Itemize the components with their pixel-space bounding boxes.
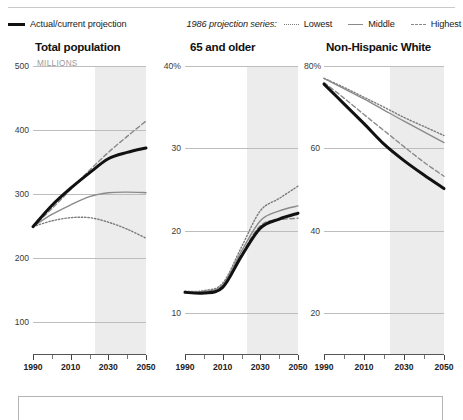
x-axis-tick (260, 355, 261, 360)
legend-item-lowest: Lowest (284, 19, 349, 29)
y-axis-tick-label: 500 (0, 62, 29, 71)
x-axis-tick (364, 355, 365, 360)
panel-title: Non-Hispanic White (326, 40, 431, 53)
series-line (324, 78, 444, 142)
x-axis-tick (146, 355, 147, 360)
x-axis-tick (223, 355, 224, 360)
y-axis-tick-label: 400 (0, 126, 29, 135)
y-axis-tick-label: 80% (304, 62, 320, 71)
x-axis-tick (344, 355, 345, 359)
legend-label-lowest: Lowest (304, 19, 333, 29)
series-line (324, 84, 444, 189)
footer-callout-box (18, 396, 443, 420)
x-axis-tick (404, 355, 405, 360)
x-axis-tick-label: 2030 (394, 362, 413, 372)
x-axis-tick-label: 2030 (251, 362, 270, 372)
series-line (185, 213, 298, 293)
series-line (324, 82, 444, 176)
legend-item-highest: Highest (411, 19, 461, 29)
plot-area: 5004003002001001990201020302050 (33, 66, 146, 354)
legend-swatch-solid-icon (348, 24, 363, 25)
x-axis-tick (204, 355, 205, 359)
series-lines (33, 66, 146, 354)
y-axis-tick-label: 10 (152, 309, 181, 318)
legend-group-label: 1986 projection series: (187, 19, 277, 29)
x-axis-tick (242, 355, 243, 359)
y-axis-tick-label: 60 (304, 144, 320, 153)
y-axis-tick-label: 40 (304, 227, 320, 236)
x-axis-tick (279, 355, 280, 359)
y-axis-tick-label: 100 (0, 318, 29, 327)
y-axis-tick-label: 30 (152, 144, 181, 153)
x-axis-tick (33, 355, 34, 360)
plot-area: 40%3020101990201020302050 (185, 66, 298, 354)
y-axis-tick-label: 300 (0, 190, 29, 199)
legend-label-actual: Actual/current projection (30, 19, 127, 29)
panel-total-population: Total population MILLIONS 50040030020010… (0, 40, 152, 390)
y-axis-tick-label: 20 (304, 309, 320, 318)
panel-65-and-older: 65 and older 40%3020101990201020302050 (152, 40, 304, 390)
x-axis-tick (90, 355, 91, 359)
x-axis-tick-label: 2050 (434, 362, 453, 372)
top-divider (8, 7, 455, 8)
series-lines (324, 66, 444, 354)
x-axis-tick-label: 1990 (314, 362, 333, 372)
chart-legend: Actual/current projection 1986 projectio… (8, 16, 458, 32)
x-axis-tick (185, 355, 186, 360)
x-axis-tick-label: 2030 (99, 362, 118, 372)
x-axis-tick (298, 355, 299, 360)
legend-label-middle: Middle (368, 19, 394, 29)
x-axis-tick-label: 2010 (354, 362, 373, 372)
plot-area: 80%6040201990201020302050 (324, 66, 444, 354)
legend-label-highest: Highest (431, 19, 461, 29)
legend-swatch-dotted-icon (284, 24, 299, 25)
x-axis-tick-label: 2010 (213, 362, 232, 372)
x-axis-tick (444, 355, 445, 360)
y-axis-tick-label: 20 (152, 227, 181, 236)
x-axis-labels: 1990201020302050 (185, 362, 298, 374)
x-axis-tick (108, 355, 109, 360)
y-axis-tick-label: 200 (0, 254, 29, 263)
x-axis-tick (324, 355, 325, 360)
panel-title: 65 and older (190, 40, 255, 53)
series-line (33, 217, 146, 238)
legend-item-actual: Actual/current projection (8, 19, 143, 29)
series-lines (185, 66, 298, 354)
x-axis-tick-label: 1990 (23, 362, 42, 372)
x-axis-labels: 1990201020302050 (324, 362, 444, 374)
x-axis-tick (424, 355, 425, 359)
x-axis-tick (384, 355, 385, 359)
legend-item-middle: Middle (348, 19, 410, 29)
x-axis-tick (52, 355, 53, 359)
x-axis-tick-label: 1990 (175, 362, 194, 372)
x-axis-tick-label: 2010 (61, 362, 80, 372)
series-line (185, 186, 298, 291)
legend-swatch-solid-bold-icon (8, 23, 25, 26)
x-axis-tick (71, 355, 72, 360)
panel-non-hispanic-white: Non-Hispanic White 80%604020199020102030… (304, 40, 463, 390)
x-axis-tick (127, 355, 128, 359)
y-axis-tick-label: 40% (152, 62, 181, 71)
panel-title: Total population (35, 40, 120, 53)
x-axis-labels: 1990201020302050 (33, 362, 146, 374)
legend-swatch-dashed-icon (411, 24, 426, 25)
